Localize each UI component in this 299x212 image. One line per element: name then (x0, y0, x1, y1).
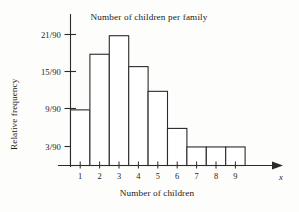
x-tick-label-8: 8 (214, 172, 218, 181)
x-tick-label-7: 7 (195, 172, 199, 181)
histogram-bar (71, 110, 90, 166)
histogram-plot: Number of children per family x 3/90 9/9… (0, 0, 299, 212)
histogram-bar (148, 91, 167, 165)
x-axis-variable-label: x (278, 172, 283, 182)
y-axis-title: Relative frequency (9, 78, 19, 150)
x-tick-label-9: 9 (233, 172, 237, 181)
chart-title: Number of children per family (90, 12, 207, 22)
x-axis-title: Number of children (120, 188, 195, 198)
x-tick-label-3: 3 (117, 172, 121, 181)
x-tick-label-6: 6 (175, 172, 179, 181)
y-tick-label-3-90: 3/90 (45, 142, 61, 152)
x-tick-label-1: 1 (78, 172, 82, 181)
y-tick-label-9-90: 9/90 (45, 104, 61, 114)
histogram-bar (168, 128, 187, 165)
chart-figure: Number of children per family x 3/90 9/9… (0, 0, 299, 212)
histogram-bar (109, 36, 128, 166)
histogram-bar (129, 67, 148, 166)
x-tick-label-5: 5 (156, 172, 160, 181)
histogram-bar (90, 54, 109, 165)
x-tick-label-2: 2 (98, 172, 102, 181)
y-tick-label-15-90: 15/90 (41, 67, 61, 77)
y-tick-label-21-90: 21/90 (41, 30, 61, 40)
